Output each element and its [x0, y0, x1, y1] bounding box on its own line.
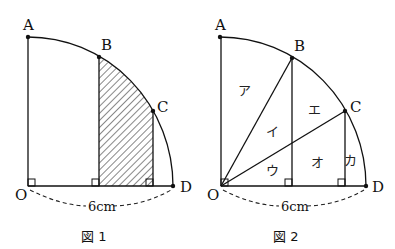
point-A	[218, 35, 222, 39]
figure-1: A B C O D 6cm 図 1	[15, 16, 192, 244]
dimension-curve	[307, 190, 364, 206]
point-B	[97, 55, 101, 59]
label-C: C	[157, 98, 168, 116]
point-C	[151, 109, 155, 113]
region-label-e: エ	[308, 102, 321, 117]
dimension-curve	[30, 190, 86, 206]
point-B	[290, 56, 294, 60]
right-angle-mark-B	[285, 179, 292, 186]
figure-caption: 図 2	[273, 229, 298, 244]
right-angle-mark-C	[338, 179, 345, 186]
label-B: B	[101, 36, 112, 54]
right-angle-mark-B	[92, 179, 99, 186]
point-D	[364, 184, 368, 188]
dimension-label: 6cm	[88, 199, 116, 214]
point-A	[26, 35, 30, 39]
segment-OB	[221, 58, 292, 186]
label-A: A	[214, 16, 226, 34]
region-label-o: オ	[311, 155, 324, 170]
diagram-canvas: A B C O D 6cm 図 1 A B C O D ア イ	[0, 0, 395, 249]
dimension-curve	[223, 190, 279, 206]
point-C	[343, 109, 347, 113]
label-D: D	[180, 178, 192, 196]
region-label-u: ウ	[266, 163, 279, 178]
dimension-label: 6cm	[281, 199, 309, 214]
label-O: O	[15, 186, 27, 204]
region-label-i: イ	[266, 124, 279, 139]
figure-2: A B C O D ア イ ウ エ オ カ 6cm 図 2	[207, 16, 384, 244]
dimension-curve	[113, 190, 171, 206]
label-C: C	[350, 98, 361, 116]
segment-OC	[221, 111, 345, 186]
label-B: B	[294, 37, 305, 55]
label-A: A	[22, 16, 34, 34]
region-label-ka: カ	[344, 153, 357, 168]
right-angle-mark-O	[28, 179, 35, 186]
region-label-a: ア	[238, 83, 251, 98]
label-D: D	[372, 178, 384, 196]
figure-caption: 図 1	[81, 229, 106, 244]
point-D	[171, 184, 175, 188]
label-O: O	[207, 186, 219, 204]
